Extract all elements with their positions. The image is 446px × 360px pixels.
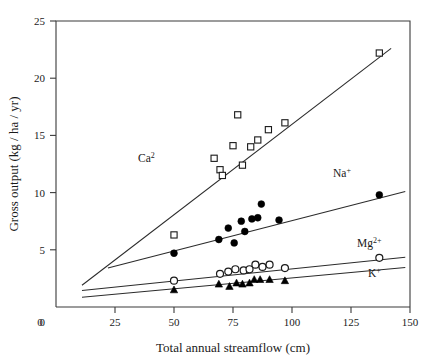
- series-label-ca2: Ca2: [138, 151, 155, 164]
- point-na: [241, 228, 248, 235]
- point-ca2: [235, 112, 241, 118]
- x-tick-label: 100: [284, 316, 301, 328]
- x-axis-title: Total annual streamflow (cm): [156, 340, 310, 355]
- point-k: [266, 276, 273, 283]
- point-mg2: [281, 265, 288, 272]
- point-na: [276, 217, 283, 224]
- point-ca2: [265, 127, 271, 133]
- point-ca2: [230, 143, 236, 149]
- series-label-mg2: Mg2+: [357, 236, 382, 250]
- point-na: [258, 201, 265, 208]
- point-na: [225, 225, 232, 232]
- y-axis-title: Gross output (kg / ha / yr): [6, 96, 21, 231]
- point-mg2: [232, 266, 239, 273]
- point-na: [171, 250, 178, 257]
- scatter-chart: 02550751001251500510152025 Ca2Na+Mg2+K+ …: [0, 0, 446, 360]
- point-ca2: [255, 137, 261, 143]
- y-tick-label: 25: [34, 15, 46, 27]
- fit-line-na: [108, 191, 405, 268]
- y-tick-label: 5: [40, 244, 46, 256]
- series-label-na: Na+: [333, 166, 351, 179]
- data-markers: [170, 50, 383, 293]
- point-mg2: [171, 277, 178, 284]
- point-mg2: [225, 268, 232, 275]
- point-ca2: [248, 144, 254, 150]
- point-ca2: [282, 120, 288, 126]
- tick-labels: 02550751001251500510152025: [34, 15, 419, 328]
- x-tick-label: 25: [110, 316, 122, 328]
- point-na: [376, 191, 383, 198]
- regression-lines: [82, 48, 405, 297]
- point-mg2: [259, 263, 266, 270]
- point-na: [238, 218, 245, 225]
- series-label-k: K+: [368, 266, 381, 279]
- x-tick-label: 150: [402, 316, 419, 328]
- y-tick-label: 0: [40, 316, 46, 328]
- point-k: [215, 280, 222, 287]
- point-na: [248, 216, 255, 223]
- point-na: [231, 240, 238, 247]
- point-na: [215, 236, 222, 243]
- point-ca2: [219, 172, 225, 178]
- point-mg2: [266, 261, 273, 268]
- x-tick-label: 125: [343, 316, 360, 328]
- point-ca2: [376, 50, 382, 56]
- point-na: [254, 214, 261, 221]
- point-ca2: [211, 155, 217, 161]
- point-ca2: [239, 162, 245, 168]
- point-k: [256, 276, 263, 283]
- y-tick-label: 15: [34, 129, 46, 141]
- point-mg2: [376, 254, 383, 261]
- x-tick-label: 75: [228, 316, 240, 328]
- point-k: [239, 280, 246, 287]
- x-tick-label: 50: [169, 316, 181, 328]
- point-ca2: [171, 232, 177, 238]
- y-tick-label: 20: [34, 72, 46, 84]
- y-tick-label: 10: [34, 187, 46, 199]
- point-mg2: [217, 270, 224, 277]
- point-mg2: [252, 261, 259, 268]
- chart-page: 02550751001251500510152025 Ca2Na+Mg2+K+ …: [0, 0, 446, 360]
